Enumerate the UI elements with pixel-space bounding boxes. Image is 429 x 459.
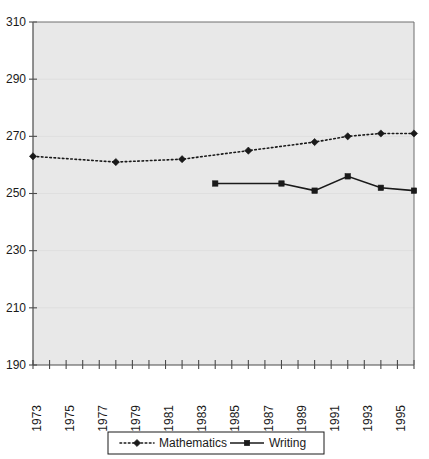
y-axis-tick-label: 190 bbox=[6, 358, 26, 372]
x-axis-tick-label: 1983 bbox=[195, 405, 209, 432]
x-axis-tick-label: 1979 bbox=[129, 405, 143, 432]
y-axis-tick-label: 230 bbox=[6, 243, 26, 257]
x-axis-tick-label: 1995 bbox=[394, 405, 408, 432]
data-point-marker-square bbox=[345, 174, 350, 179]
y-axis-tick-label: 250 bbox=[6, 186, 26, 200]
x-axis-tick-label: 1973 bbox=[30, 405, 44, 432]
x-axis-tick-label: 1977 bbox=[96, 405, 110, 432]
x-axis-tick-label: 1975 bbox=[63, 405, 77, 432]
y-axis-tick-label: 210 bbox=[6, 301, 26, 315]
data-point-marker-square bbox=[279, 181, 284, 186]
x-axis-tick-label: 1981 bbox=[162, 405, 176, 432]
data-point-marker-square bbox=[378, 185, 383, 190]
chart-container: 310290270250230210190 197319751977197919… bbox=[0, 0, 429, 459]
legend-label-writing: Writing bbox=[269, 436, 306, 450]
x-axis-tick-label: 1991 bbox=[328, 405, 342, 432]
legend-marker-square bbox=[244, 440, 249, 445]
data-point-marker-square bbox=[411, 188, 416, 193]
legend-label-mathematics: Mathematics bbox=[159, 436, 227, 450]
x-axis-tick-label: 1989 bbox=[295, 405, 309, 432]
x-axis-tick-label: 1985 bbox=[228, 405, 242, 432]
data-point-marker-square bbox=[213, 181, 218, 186]
chart-legend[interactable]: MathematicsWriting bbox=[108, 432, 324, 454]
line-chart: 310290270250230210190 197319751977197919… bbox=[0, 0, 429, 459]
y-axis-tick-label: 270 bbox=[6, 129, 26, 143]
x-axis-tick-label: 1993 bbox=[361, 405, 375, 432]
data-point-marker-square bbox=[312, 188, 317, 193]
y-axis-tick-label: 290 bbox=[6, 72, 26, 86]
x-axis-tick-label: 1987 bbox=[262, 405, 276, 432]
y-axis-tick-label: 310 bbox=[6, 15, 26, 29]
